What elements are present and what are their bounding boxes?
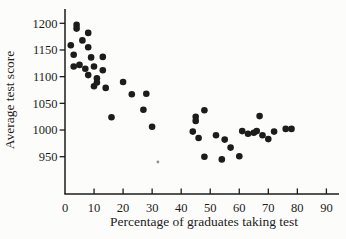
y-tick-label: 950 <box>39 150 58 164</box>
data-point <box>70 52 77 59</box>
data-point <box>227 144 234 151</box>
data-point <box>288 126 295 133</box>
x-tick-label: 10 <box>88 201 101 215</box>
data-point <box>140 106 147 113</box>
data-point <box>245 130 252 137</box>
y-tick-label: 1050 <box>33 97 58 111</box>
x-tick-label: 60 <box>233 201 246 215</box>
data-point <box>108 114 115 121</box>
data-point <box>265 136 272 143</box>
data-point <box>282 126 289 133</box>
data-point <box>73 25 80 32</box>
data-point <box>100 67 107 74</box>
data-point <box>253 128 260 135</box>
x-axis-title: Percentage of graduates taking test <box>110 214 298 229</box>
stray-speck <box>157 161 160 164</box>
data-point <box>85 30 92 37</box>
data-point <box>100 54 107 61</box>
y-tick-label: 1200 <box>33 17 58 31</box>
data-point <box>201 107 208 114</box>
data-point <box>256 113 263 120</box>
x-tick-label: 0 <box>62 201 68 215</box>
axes-layer <box>64 9 339 194</box>
data-point <box>70 63 77 70</box>
data-point <box>91 63 98 70</box>
scatter-chart: 9501000105011001150120001020304050607080… <box>0 0 346 239</box>
x-tick-label: 40 <box>175 201 188 215</box>
data-point <box>120 79 127 86</box>
y-axis-title: Average test score <box>2 51 17 150</box>
data-points-layer <box>68 22 295 164</box>
data-point <box>76 62 83 69</box>
scatter-plot-canvas: 9501000105011001150120001020304050607080… <box>0 0 346 239</box>
x-tick-label: 30 <box>146 201 159 215</box>
x-tick-label: 90 <box>320 201 333 215</box>
data-point <box>236 153 243 160</box>
data-point <box>91 83 98 90</box>
figure-page: 9501000105011001150120001020304050607080… <box>0 0 346 239</box>
data-point <box>221 136 228 143</box>
data-point <box>213 132 220 139</box>
data-point <box>88 54 95 61</box>
x-tick-label: 50 <box>204 201 217 215</box>
data-point <box>129 91 136 98</box>
data-point <box>85 44 92 51</box>
data-point <box>201 153 208 160</box>
data-point <box>79 37 86 44</box>
data-point <box>102 85 109 92</box>
data-point <box>219 156 226 163</box>
x-tick-label: 70 <box>262 201 275 215</box>
x-tick-label: 80 <box>291 201 304 215</box>
data-point <box>82 65 89 72</box>
data-point <box>143 90 150 97</box>
data-point <box>68 42 75 49</box>
data-point <box>271 128 278 135</box>
data-point <box>190 128 197 135</box>
data-point <box>195 135 202 142</box>
data-point <box>85 72 92 79</box>
ticks-layer: 9501000105011001150120001020304050607080… <box>33 17 333 215</box>
y-tick-label: 1150 <box>33 43 58 57</box>
data-point <box>149 124 156 131</box>
y-tick-label: 1100 <box>33 70 58 84</box>
data-point <box>192 118 199 125</box>
y-tick-label: 1000 <box>33 123 58 137</box>
x-tick-label: 20 <box>117 201 130 215</box>
data-point <box>239 128 246 135</box>
data-point <box>259 132 266 139</box>
